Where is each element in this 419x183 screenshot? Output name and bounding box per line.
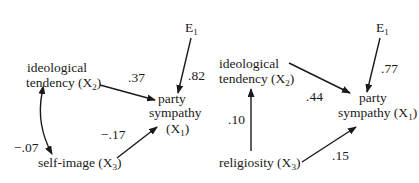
left-diagram: E1 .82 ideological tendency (X2) .37 par… [14,20,205,172]
right-e-coef: .77 [381,61,398,76]
right-error-node: E1 [376,20,389,37]
right-diagram: E1 .77 ideological tendency (X2) .44 par… [219,20,417,172]
left-x1-node-line1: party [158,91,186,106]
right-x2-node-line2: tendency (X2) [219,71,294,88]
left-x1-node-line2: sympathy [149,105,202,120]
left-x3-node: self-image (X3) [38,155,122,172]
left-x1-node-line3: (X1) [166,121,189,138]
left-x2-node-line2: tendency (X2) [26,75,101,92]
right-x2-node-line1: ideological [219,56,279,71]
path-diagrams: E1 .82 ideological tendency (X2) .37 par… [0,0,419,183]
left-x3-coef: −.17 [101,127,126,142]
right-x2-coef: .44 [306,89,323,104]
left-x2-node-line1: ideological [27,60,87,75]
right-x3-node: religiosity (X3) [219,155,300,172]
right-x3-to-x2-coef: .10 [228,112,245,127]
right-e-to-x1-arrow [367,38,380,92]
left-error-node: E1 [185,20,198,37]
left-e-coef: .82 [188,68,205,83]
right-x1-node-line1: party [359,90,387,105]
left-correlation-coef: −.07 [14,140,39,155]
right-x3-to-x1-coef: .15 [332,148,349,163]
left-x2-x3-correlation-arrow [40,93,52,154]
left-e-to-x1-arrow [178,38,191,93]
left-x2-to-x1-arrow [100,85,155,100]
right-x1-node-line2: sympathy (X1) [338,105,417,122]
left-x2-coef: .37 [128,70,145,85]
